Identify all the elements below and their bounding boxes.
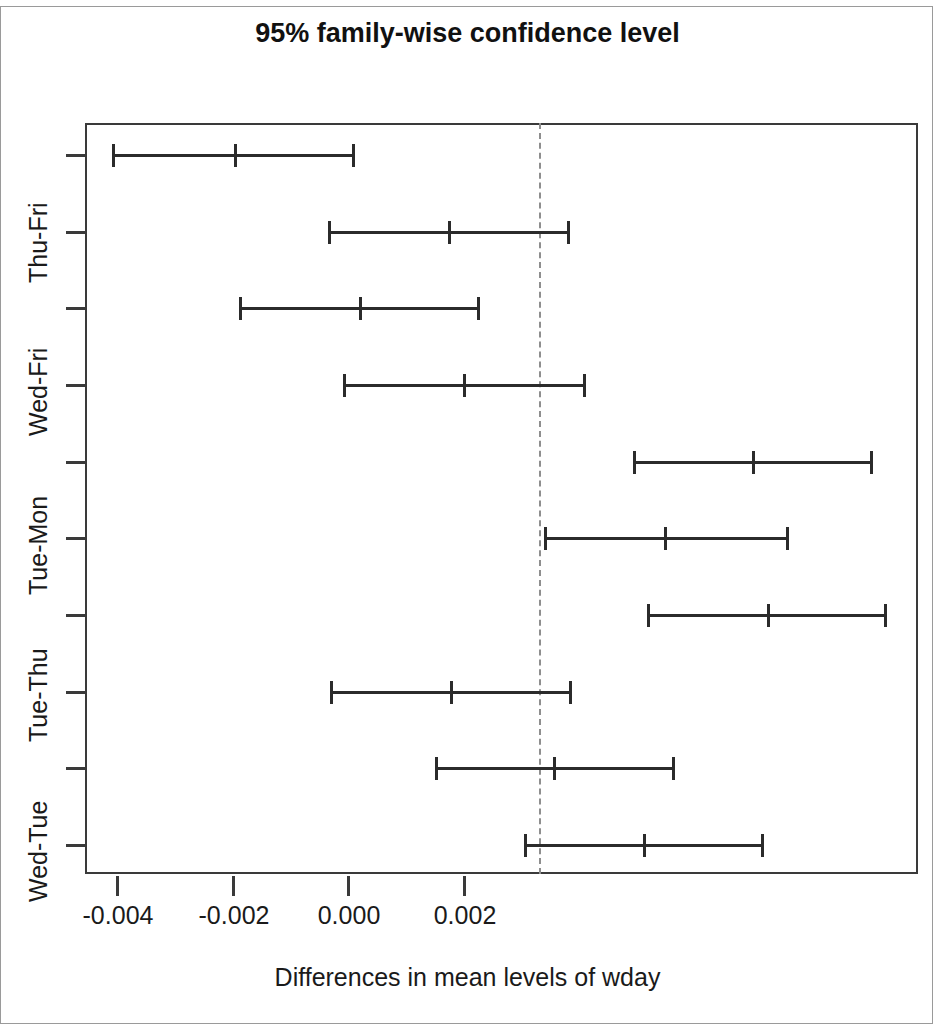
ci-upper-cap-2 bbox=[477, 297, 480, 320]
x-tick-label-0: -0.004 bbox=[56, 901, 180, 930]
x-tick-label-1: -0.002 bbox=[172, 901, 296, 930]
ci-upper-cap-3 bbox=[583, 374, 586, 397]
chart-canvas: 95% family-wise confidence level Thu-Fri… bbox=[0, 0, 935, 1034]
y-axis-label-wed-tue: Wed-Tue bbox=[24, 801, 53, 902]
ci-estimate-1 bbox=[448, 221, 451, 244]
zero-reference-line bbox=[539, 123, 541, 874]
ci-estimate-2 bbox=[359, 297, 362, 320]
ci-upper-cap-7 bbox=[569, 681, 572, 704]
chart-title: 95% family-wise confidence level bbox=[0, 18, 935, 49]
ci-estimate-7 bbox=[450, 681, 453, 704]
y-tick-3 bbox=[66, 384, 87, 387]
ci-lower-cap-8 bbox=[435, 757, 438, 780]
x-tick-1 bbox=[232, 876, 235, 896]
ci-estimate-3 bbox=[463, 374, 466, 397]
y-tick-9 bbox=[66, 844, 87, 847]
ci-lower-cap-3 bbox=[343, 374, 346, 397]
x-tick-0 bbox=[116, 876, 119, 896]
ci-lower-cap-2 bbox=[239, 297, 242, 320]
y-tick-5 bbox=[66, 537, 87, 540]
ci-lower-cap-5 bbox=[544, 527, 547, 550]
plot-area bbox=[85, 123, 918, 874]
ci-lower-cap-1 bbox=[328, 221, 331, 244]
ci-lower-cap-4 bbox=[633, 451, 636, 474]
y-axis-label-wed-fri: Wed-Fri bbox=[24, 348, 53, 436]
ci-lower-cap-9 bbox=[524, 834, 527, 857]
ci-lower-cap-6 bbox=[647, 604, 650, 627]
y-axis-label-tue-mon: Tue-Mon bbox=[24, 496, 53, 595]
y-tick-1 bbox=[66, 231, 87, 234]
ci-estimate-6 bbox=[767, 604, 770, 627]
x-tick-label-2: 0.000 bbox=[287, 901, 411, 930]
y-tick-6 bbox=[66, 614, 87, 617]
y-tick-0 bbox=[66, 154, 87, 157]
ci-estimate-9 bbox=[643, 834, 646, 857]
y-tick-8 bbox=[66, 767, 87, 770]
ci-upper-cap-1 bbox=[567, 221, 570, 244]
ci-estimate-8 bbox=[553, 757, 556, 780]
ci-estimate-4 bbox=[752, 451, 755, 474]
ci-upper-cap-9 bbox=[761, 834, 764, 857]
ci-estimate-0 bbox=[234, 144, 237, 167]
y-tick-2 bbox=[66, 307, 87, 310]
x-tick-2 bbox=[347, 876, 350, 896]
y-tick-7 bbox=[66, 691, 87, 694]
ci-lower-cap-0 bbox=[112, 144, 115, 167]
ci-upper-cap-5 bbox=[786, 527, 789, 550]
ci-lower-cap-7 bbox=[330, 681, 333, 704]
x-axis-caption: Differences in mean levels of wday bbox=[0, 963, 935, 992]
ci-estimate-5 bbox=[664, 527, 667, 550]
ci-upper-cap-8 bbox=[672, 757, 675, 780]
y-tick-4 bbox=[66, 461, 87, 464]
ci-upper-cap-6 bbox=[884, 604, 887, 627]
y-axis-label-tue-thu: Tue-Thu bbox=[24, 648, 53, 742]
ci-upper-cap-4 bbox=[870, 451, 873, 474]
ci-upper-cap-0 bbox=[352, 144, 355, 167]
x-tick-3 bbox=[463, 876, 466, 896]
y-axis-label-thu-fri: Thu-Fri bbox=[24, 202, 53, 283]
x-tick-label-3: 0.002 bbox=[403, 901, 527, 930]
